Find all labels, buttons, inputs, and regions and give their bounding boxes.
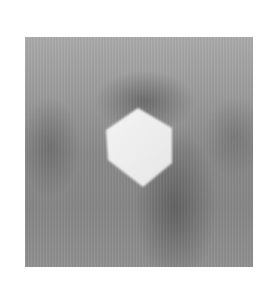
micrograph-image bbox=[25, 37, 253, 267]
hexagonal-crystal bbox=[25, 37, 253, 267]
